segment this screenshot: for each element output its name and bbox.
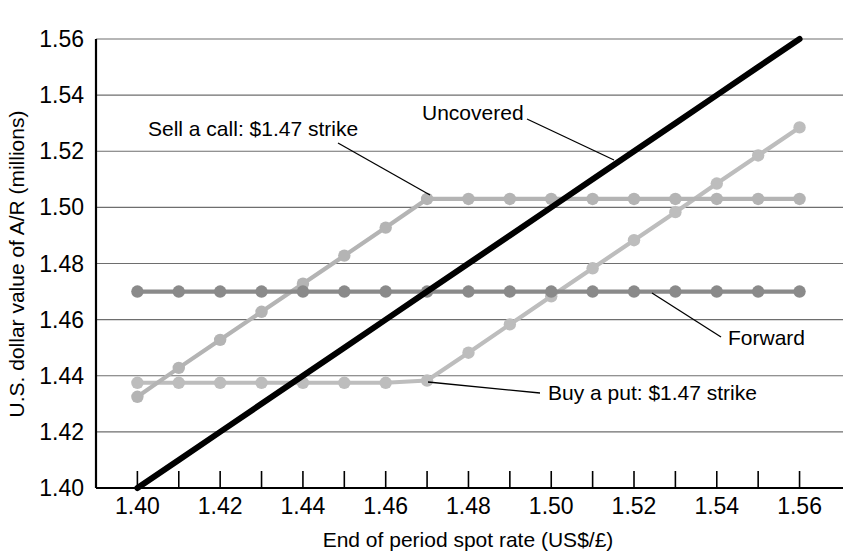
data-point <box>214 334 226 346</box>
y-tick-label-1.44: 1.44 <box>39 363 84 389</box>
data-point <box>380 221 392 233</box>
series-buy-a-put-1-47-strike <box>131 121 806 389</box>
x-axis-ticks <box>137 471 799 488</box>
y-tick-label-1.46: 1.46 <box>39 307 84 333</box>
data-point <box>131 285 143 297</box>
y-tick-label-1.48: 1.48 <box>39 251 84 277</box>
annotation-label-uncovered: Uncovered <box>422 101 524 124</box>
data-point <box>711 177 723 189</box>
data-point <box>586 285 598 297</box>
y-tick-label-1.56: 1.56 <box>39 26 84 52</box>
annotations-layer: Sell a call: $1.47 strikeUncoveredForwar… <box>148 101 805 404</box>
data-point <box>131 391 143 403</box>
y-tick-label-1.40: 1.40 <box>39 475 84 501</box>
data-point <box>752 285 764 297</box>
x-tick-label-1.42: 1.42 <box>198 493 243 519</box>
x-tick-label-1.48: 1.48 <box>446 493 491 519</box>
data-point <box>711 285 723 297</box>
x-tick-label-1.52: 1.52 <box>612 493 657 519</box>
data-point <box>173 285 185 297</box>
data-point <box>793 121 805 133</box>
line-chart: 1.401.421.441.461.481.501.521.541.56 1.4… <box>0 0 851 560</box>
annotation-forward: Forward <box>652 293 805 349</box>
data-point <box>338 249 350 261</box>
y-tick-label-1.54: 1.54 <box>39 82 84 108</box>
data-point <box>462 193 474 205</box>
data-point <box>504 193 516 205</box>
x-tick-label-1.44: 1.44 <box>281 493 326 519</box>
data-point <box>380 377 392 389</box>
data-point <box>669 285 681 297</box>
data-point <box>628 193 640 205</box>
y-tick-label-1.52: 1.52 <box>39 138 84 164</box>
data-point <box>793 285 805 297</box>
x-tick-label-1.56: 1.56 <box>777 493 822 519</box>
chart-container: 1.401.421.441.461.481.501.521.541.56 1.4… <box>0 0 851 560</box>
data-point <box>504 318 516 330</box>
data-point <box>752 149 764 161</box>
annotation-label-sell-a-call: Sell a call: $1.47 strike <box>148 117 358 140</box>
data-point <box>173 362 185 374</box>
series-sell-a-call-1-47-strike <box>131 193 806 403</box>
data-point <box>752 193 764 205</box>
annotation-sell-a-call: Sell a call: $1.47 strike <box>148 117 430 195</box>
data-point <box>545 285 557 297</box>
data-point <box>131 377 143 389</box>
x-tick-label-1.46: 1.46 <box>363 493 408 519</box>
data-point <box>586 193 598 205</box>
annotation-leader-uncovered <box>527 119 614 160</box>
annotation-leader-forward <box>652 293 721 337</box>
data-point <box>462 285 474 297</box>
x-tick-label-1.54: 1.54 <box>694 493 739 519</box>
data-point <box>338 285 350 297</box>
data-point <box>214 285 226 297</box>
x-axis-tick-labels: 1.401.421.441.461.481.501.521.541.56 <box>115 493 822 519</box>
data-point <box>380 285 392 297</box>
y-tick-label-1.42: 1.42 <box>39 419 84 445</box>
annotation-buy-a-put: Buy a put: $1.47 strike <box>428 381 757 404</box>
data-point <box>504 285 516 297</box>
data-point <box>214 377 226 389</box>
x-axis-title: End of period spot rate (US$/£) <box>323 528 614 551</box>
data-point <box>255 306 267 318</box>
annotation-label-buy-a-put: Buy a put: $1.47 strike <box>548 381 757 404</box>
y-tick-label-1.50: 1.50 <box>39 194 84 220</box>
data-point <box>297 285 309 297</box>
data-point <box>711 193 723 205</box>
annotation-leader-buy-a-put <box>428 382 540 393</box>
data-point <box>255 285 267 297</box>
data-point <box>628 285 640 297</box>
data-point <box>628 234 640 246</box>
data-point <box>793 193 805 205</box>
series-line <box>137 199 799 397</box>
data-point <box>586 262 598 274</box>
data-point <box>669 206 681 218</box>
data-point <box>421 193 433 205</box>
data-point <box>338 377 350 389</box>
data-point <box>421 374 433 386</box>
y-axis-tick-labels: 1.401.421.441.461.481.501.521.541.56 <box>39 26 84 501</box>
gridlines <box>96 39 843 432</box>
data-point <box>669 193 681 205</box>
y-axis-title: U.S. dollar value of A/R (millions) <box>5 111 28 418</box>
x-tick-label-1.50: 1.50 <box>529 493 574 519</box>
x-tick-label-1.40: 1.40 <box>115 493 160 519</box>
data-point <box>173 377 185 389</box>
data-point <box>462 347 474 359</box>
series-line <box>137 127 799 382</box>
annotation-label-forward: Forward <box>728 326 805 349</box>
data-point <box>255 377 267 389</box>
series-forward <box>131 285 806 297</box>
